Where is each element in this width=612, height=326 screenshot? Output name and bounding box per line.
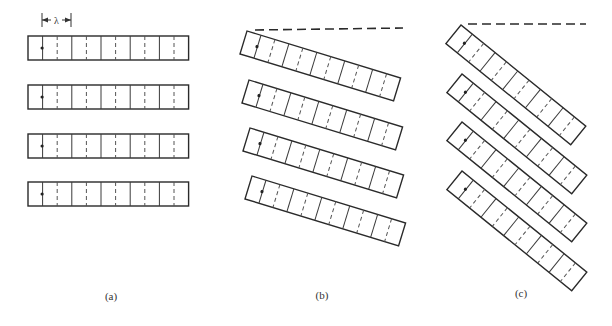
element-divider xyxy=(340,110,347,133)
element-divider xyxy=(504,120,519,139)
array-outline xyxy=(240,31,401,101)
element-divider xyxy=(515,129,530,148)
element-divider xyxy=(271,137,278,160)
element-divider xyxy=(282,44,289,67)
element-divider xyxy=(299,145,306,168)
element-divider xyxy=(371,214,378,237)
element-divider xyxy=(481,150,496,169)
element-divider xyxy=(313,149,320,172)
element-divider xyxy=(481,102,496,121)
element-divider xyxy=(296,48,303,71)
element-divider xyxy=(503,71,518,90)
panel-label-a: (a) xyxy=(105,290,117,302)
element-divider xyxy=(301,193,308,216)
element-divider xyxy=(469,43,484,62)
element-divider xyxy=(504,217,519,236)
element-divider xyxy=(560,214,575,233)
feed-point-dot xyxy=(41,46,44,49)
panel-label-b: (b) xyxy=(316,289,329,301)
element-divider xyxy=(273,185,280,208)
element-divider xyxy=(284,93,291,116)
element-divider xyxy=(526,235,541,254)
element-divider xyxy=(285,141,292,164)
element-divider xyxy=(538,148,553,167)
element-divider xyxy=(287,189,294,212)
element-divider xyxy=(515,177,530,196)
element-divider xyxy=(549,205,564,224)
array-outline xyxy=(242,80,403,150)
element-divider xyxy=(481,199,496,218)
reference-dashed-line xyxy=(255,28,403,30)
element-divider xyxy=(315,197,322,220)
linear-array-2 xyxy=(28,85,189,109)
element-divider xyxy=(537,99,552,118)
element-divider xyxy=(368,118,375,141)
array-outline xyxy=(245,176,406,246)
wavelength-spacing-annotation: λ xyxy=(42,13,71,27)
element-divider xyxy=(312,101,319,124)
element-divider xyxy=(341,158,348,181)
lambda-symbol: λ xyxy=(54,15,59,26)
array-outline xyxy=(28,36,189,60)
element-divider xyxy=(560,263,575,282)
linear-array-4 xyxy=(245,176,406,246)
element-divider xyxy=(310,52,317,75)
element-divider xyxy=(324,57,331,80)
element-divider xyxy=(504,168,519,187)
array-outline xyxy=(28,134,189,158)
array-outline xyxy=(28,85,189,109)
element-divider xyxy=(515,226,530,245)
element-divider xyxy=(514,80,529,99)
element-divider xyxy=(492,111,507,130)
element-divider xyxy=(492,159,507,178)
element-divider xyxy=(492,208,507,227)
element-divider xyxy=(385,219,392,242)
element-divider xyxy=(343,206,350,229)
feed-point-dot xyxy=(41,192,44,195)
array-outline xyxy=(243,128,404,198)
element-divider xyxy=(329,202,336,225)
element-divider xyxy=(470,140,485,159)
array-outline xyxy=(28,182,189,206)
arrow-right-icon xyxy=(65,18,71,23)
element-divider xyxy=(326,106,333,129)
panel-a xyxy=(28,36,189,206)
element-divider xyxy=(354,114,361,137)
element-divider xyxy=(526,138,541,157)
linear-array-1 xyxy=(28,36,189,60)
antenna-array-diagram: λ xyxy=(0,0,612,326)
element-divider xyxy=(538,245,553,264)
element-divider xyxy=(491,62,506,81)
panels-group xyxy=(28,24,587,291)
element-divider xyxy=(366,69,373,92)
linear-array-3 xyxy=(28,134,189,158)
element-divider xyxy=(357,210,364,233)
panel-c xyxy=(446,24,587,291)
panel-label-c: (c) xyxy=(515,287,527,299)
linear-array-3 xyxy=(243,128,404,198)
element-divider xyxy=(268,40,275,63)
element-divider xyxy=(549,254,564,273)
element-divider xyxy=(549,157,564,176)
linear-array-2 xyxy=(242,80,403,150)
element-divider xyxy=(560,166,575,185)
element-divider xyxy=(480,53,495,72)
element-divider xyxy=(383,171,390,194)
element-divider xyxy=(538,196,553,215)
element-divider xyxy=(526,186,541,205)
feed-point-dot xyxy=(41,144,44,147)
arrow-left-icon xyxy=(42,18,48,23)
element-divider xyxy=(338,61,345,84)
linear-array-1 xyxy=(240,31,401,101)
element-divider xyxy=(352,65,359,88)
linear-array-4 xyxy=(28,182,189,206)
element-divider xyxy=(327,154,334,177)
panel-b xyxy=(240,28,406,246)
element-divider xyxy=(470,189,485,208)
element-divider xyxy=(298,97,305,120)
element-divider xyxy=(382,123,389,146)
element-divider xyxy=(355,162,362,185)
element-divider xyxy=(380,74,387,97)
element-divider xyxy=(559,117,574,136)
element-divider xyxy=(470,92,485,111)
